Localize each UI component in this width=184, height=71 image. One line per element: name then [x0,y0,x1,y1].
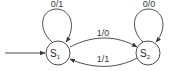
transition-s1-s2: 1/0 [70,28,137,47]
transition-s2-s2: 0/0 [134,0,163,42]
state-s2: S2 [136,41,160,65]
transition-s2-s1: 1/1 [70,54,137,66]
transition-s1-s1: 0/1 [43,0,72,42]
state-s1: S1 [46,41,70,65]
transition-label: 1/1 [97,54,110,64]
transition-label: 0/1 [51,0,64,9]
transition-label: 0/0 [143,0,156,9]
state-diagram: 0/1 0/0 1/0 1/1 S1 S2 [0,0,184,71]
transition-label: 1/0 [97,28,110,38]
